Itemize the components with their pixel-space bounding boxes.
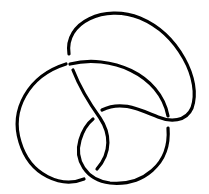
knot-strand-left-loop xyxy=(17,64,84,182)
knot-diagram xyxy=(0,0,209,194)
knot-strand-upper-loop xyxy=(69,13,195,120)
knot-strand-outer-arc xyxy=(70,61,168,116)
knot-strand-outer-arc-lower xyxy=(78,119,168,183)
